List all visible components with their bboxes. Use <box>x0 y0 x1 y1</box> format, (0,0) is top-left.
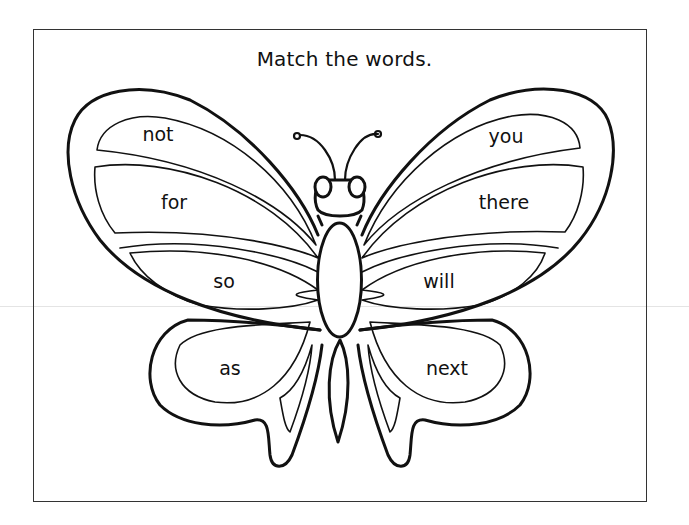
left-wing-cell-not <box>97 117 316 245</box>
butterfly-right-antenna <box>345 134 378 180</box>
right-lower-wing <box>358 320 530 466</box>
butterfly-right-eye <box>349 177 365 197</box>
butterfly-abdomen <box>329 340 348 442</box>
butterfly-thorax <box>318 223 362 337</box>
word-not: not <box>142 123 173 145</box>
left-lower-wing <box>150 320 322 466</box>
butterfly-left-eye <box>315 177 331 197</box>
word-you: you <box>489 125 524 147</box>
butterfly-left-antenna <box>300 135 335 180</box>
word-for: for <box>161 191 187 213</box>
left-antenna-tip <box>294 133 300 139</box>
word-so: so <box>213 270 235 292</box>
butterfly-illustration <box>0 0 689 525</box>
word-there: there <box>479 191 529 213</box>
word-next: next <box>426 357 468 379</box>
word-as: as <box>219 357 241 379</box>
word-will: will <box>423 270 454 292</box>
